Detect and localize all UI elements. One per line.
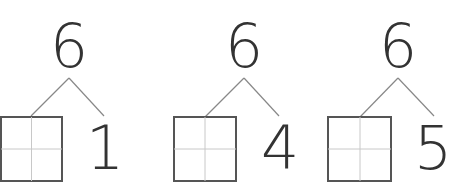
known-part-number: 4 (255, 118, 305, 178)
answer-box-3[interactable] (328, 117, 391, 181)
number-bond-group-1: 6 1 (0, 0, 150, 187)
answer-box-2[interactable] (174, 117, 236, 181)
number-bond-group-3: 6 5 (320, 0, 458, 187)
total-number: 6 (44, 16, 94, 76)
known-part-number: 1 (80, 118, 130, 178)
total-number: 6 (219, 16, 269, 76)
known-part-number: 5 (408, 118, 458, 178)
total-number: 6 (373, 16, 423, 76)
answer-box-1[interactable] (1, 117, 62, 181)
number-bond-group-2: 6 4 (170, 0, 320, 187)
